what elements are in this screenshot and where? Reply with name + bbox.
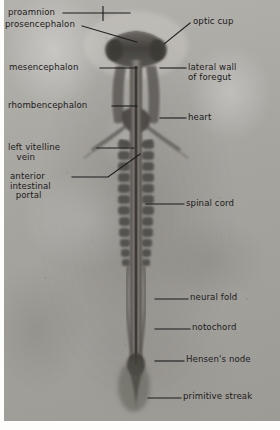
label-neural-fold: neural fold <box>190 293 237 303</box>
optic-cup-right <box>149 39 167 61</box>
label-optic-cup: optic cup <box>193 17 233 27</box>
label-proamnion: proamnion <box>8 8 55 18</box>
optic-cup-left <box>105 39 123 61</box>
label-hensens-node: Hensen's node <box>186 355 251 365</box>
label-prosencephalon: prosencephalon <box>5 20 75 30</box>
label-notochord: notochord <box>192 323 237 333</box>
label-anterior-intestinal-portal: anterior intestinal portal <box>10 172 51 201</box>
label-spinal-cord: spinal cord <box>186 199 234 209</box>
label-lateral-wall-of-foregut: lateral wall of foregut <box>188 63 237 82</box>
label-mesencephalon: mesencephalon <box>9 63 78 73</box>
primitive-streak-halo <box>118 360 150 412</box>
label-primitive-streak: primitive streak <box>183 392 252 402</box>
label-left-vitelline-vein: left vitelline vein <box>8 143 60 162</box>
label-heart: heart <box>188 113 211 123</box>
label-rhombencephalon: rhombencephalon <box>8 101 87 111</box>
notochord <box>135 66 138 366</box>
figure-plate: proamnionprosencephalonoptic cupmesencep… <box>0 0 280 430</box>
